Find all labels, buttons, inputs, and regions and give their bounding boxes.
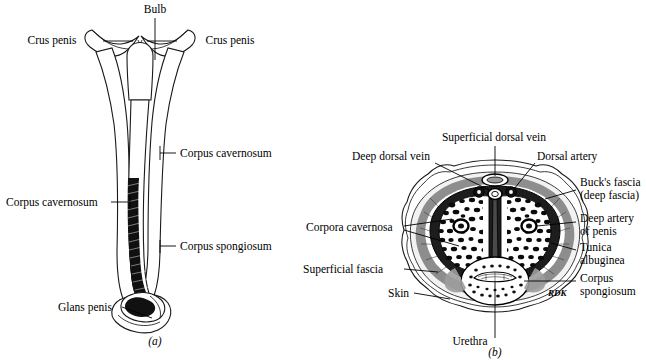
label-corpora-cavernosa: Corpora cavernosa [306,221,393,234]
label-crus-penis-right: Crus penis [206,34,255,47]
label-deep-artery-line2: of penis [580,225,617,238]
label-dorsal-artery: Dorsal artery [537,150,598,163]
panel-a-caption: (a) [148,335,162,348]
label-bucks-fascia-line1: Buck's fascia [580,176,641,188]
label-superficial-fascia: Superficial fascia [303,263,383,276]
septum-penis [492,196,498,267]
label-corpus-cavernosum-right: Corpus cavernosum [180,147,272,160]
label-corpus-spongiosum-line2: spongiosum [580,285,636,298]
deep-artery-right [522,220,537,233]
anatomical-figure-plate: Bulb Crus penis Crus penis Corpus cavern… [0,0,646,360]
label-superficial-dorsal-vein: Superficial dorsal vein [442,131,546,144]
label-corpus-cavernosum-left: Corpus cavernosum [6,196,98,209]
label-corpus-spongiosum-line1: Corpus [580,272,614,285]
label-bucks-fascia-line2: (deep fascia) [580,189,639,202]
dorsal-artery-left [474,187,484,197]
label-deep-dorsal-vein: Deep dorsal vein [352,150,430,163]
label-deep-artery-line1: Deep artery [580,212,634,225]
label-bulb: Bulb [144,3,167,15]
label-corpus-spongiosum: Corpus spongiosum [180,240,272,253]
bulb-shape [127,43,153,101]
artist-signature: RDK [547,288,568,298]
label-glans-penis: Glans penis [58,301,113,314]
panel-b-caption: (b) [488,346,502,359]
label-skin: Skin [388,287,409,299]
label-tunica-albuginea-line2: albuginea [580,254,625,267]
label-crus-penis-left: Crus penis [28,34,77,47]
figure-svg-canvas: Bulb Crus penis Crus penis Corpus cavern… [0,0,646,360]
deep-dorsal-vein [488,189,502,200]
deep-artery-left [454,220,469,233]
label-tunica-albuginea-line1: Tunica [580,241,612,253]
label-urethra: Urethra [452,335,487,347]
